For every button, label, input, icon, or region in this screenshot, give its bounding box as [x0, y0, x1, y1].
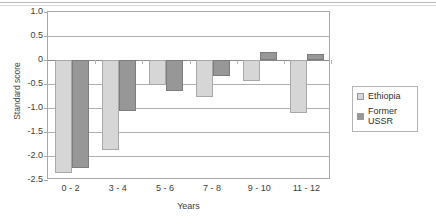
legend-item-former-ussr[interactable]: Former USSR — [357, 106, 413, 126]
x-axis-tick-label: 5 - 6 — [156, 183, 174, 193]
y-axis-tick — [44, 60, 48, 61]
bar-former-ussr-3 — [213, 60, 230, 76]
x-axis-tick-label: 7 - 8 — [203, 183, 221, 193]
x-axis-tick-label: 0 - 2 — [62, 183, 80, 193]
x-axis-tick-label: 11 - 12 — [293, 183, 320, 193]
x-axis-tick — [331, 60, 332, 64]
x-axis-tick-labels: 0 - 23 - 45 - 67 - 89 - 1011 - 12 — [47, 183, 330, 197]
y-axis-tick-label: -2.0 — [10, 151, 43, 160]
gridline — [48, 132, 329, 133]
legend-label: Former USSR — [368, 106, 413, 126]
legend-swatch-icon — [357, 93, 364, 100]
y-axis-tick-label: -2.5 — [10, 175, 43, 184]
y-axis-tick-labels: 1.00.50-0.5-1.0-1.5-2.0-2.5 — [10, 0, 43, 223]
bar-former-ussr-2 — [166, 60, 183, 91]
bar-former-ussr-1 — [119, 60, 136, 111]
bar-ethiopia-1 — [102, 60, 119, 150]
zero-axis-line — [48, 60, 329, 61]
legend-label: Ethiopia — [368, 91, 401, 101]
x-axis-tick-label: 9 - 10 — [248, 183, 271, 193]
y-axis-tick-label: -1.5 — [10, 127, 43, 136]
y-axis-tick — [44, 180, 48, 181]
chart-legend: EthiopiaFormer USSR — [352, 86, 418, 132]
y-axis-tick-label: -0.5 — [10, 79, 43, 88]
bar-ethiopia-4 — [243, 60, 260, 81]
gridline — [48, 84, 329, 85]
bar-ethiopia-2 — [149, 60, 166, 85]
y-axis-tick-label: 0.5 — [10, 31, 43, 40]
top-divider-secondary — [0, 5, 436, 6]
bar-ethiopia-5 — [290, 60, 307, 113]
x-axis-tick — [237, 60, 238, 64]
legend-item-ethiopia[interactable]: Ethiopia — [357, 91, 413, 101]
gridline — [48, 36, 329, 37]
gridline — [48, 156, 329, 157]
bar-former-ussr-4 — [260, 52, 277, 60]
x-axis-tick — [95, 60, 96, 64]
bar-ethiopia-0 — [55, 60, 72, 173]
y-axis-tick — [44, 156, 48, 157]
y-axis-tick — [44, 132, 48, 133]
y-axis-tick-label: -1.0 — [10, 103, 43, 112]
y-axis-tick-label: 1.0 — [10, 7, 43, 16]
gridline — [48, 108, 329, 109]
x-axis-title: Years — [47, 201, 330, 211]
legend-swatch-icon — [357, 113, 364, 120]
bar-ethiopia-3 — [196, 60, 213, 97]
y-axis-tick — [44, 36, 48, 37]
bar-chart: Standard score 1.00.50-0.5-1.0-1.5-2.0-2… — [0, 0, 436, 223]
x-axis-tick — [190, 60, 191, 64]
y-axis-tick-label: 0 — [10, 55, 43, 64]
y-axis-tick — [44, 84, 48, 85]
top-divider — [0, 2, 436, 3]
bar-former-ussr-0 — [72, 60, 89, 168]
bar-former-ussr-5 — [307, 54, 324, 60]
plot-area — [47, 11, 330, 179]
x-axis-tick — [142, 60, 143, 64]
y-axis-tick — [44, 108, 48, 109]
x-axis-tick-label: 3 - 4 — [109, 183, 127, 193]
y-axis-tick — [44, 12, 48, 13]
x-axis-tick — [284, 60, 285, 64]
